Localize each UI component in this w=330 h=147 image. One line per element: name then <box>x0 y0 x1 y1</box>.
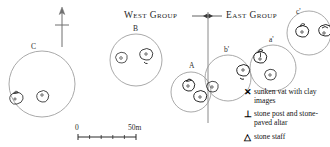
north-arrow-icon <box>55 7 69 47</box>
site-map-root: West Group East Group C B A b' a' c' 0 5… <box>0 0 330 147</box>
east-group-title: East Group <box>226 11 277 21</box>
group-title-connector <box>192 13 222 18</box>
feature-vat <box>37 91 49 103</box>
legend-item-vat: ✕ sunken vat with clay images <box>243 88 330 105</box>
enclosure-B <box>110 34 162 86</box>
scale-bar-end-label: 50m <box>128 124 141 132</box>
west-group-title: West Group <box>124 11 177 21</box>
feature-vat <box>254 50 267 64</box>
feature-vat <box>183 79 195 91</box>
enclosure-label-A: A <box>189 62 194 70</box>
legend-label-post-altar: stone post and stone-paved altar <box>254 110 330 127</box>
x-cross-icon: ✕ <box>243 88 252 97</box>
feature-vat <box>194 91 207 103</box>
enclosure-label-b-prime: b' <box>224 46 229 54</box>
legend-label-vat: sunken vat with clay images <box>254 88 330 105</box>
legend-item-stone-staff: △ stone staff <box>243 133 330 142</box>
triangle-icon: △ <box>243 133 252 142</box>
enclosure-label-a-prime: a' <box>269 36 274 44</box>
enclosure-a-prime <box>250 45 296 91</box>
enclosure-c-prime <box>287 11 330 55</box>
legend-label-stone-staff: stone staff <box>254 133 330 142</box>
feature-vat <box>116 52 128 63</box>
enclosure-label-B: B <box>133 25 138 33</box>
scale-bar <box>78 134 136 140</box>
feature-vat <box>319 25 330 37</box>
scale-bar-start-label: 0 <box>75 124 79 132</box>
feature-vat <box>140 49 153 64</box>
feature-vat <box>265 69 277 80</box>
feature-vat <box>296 24 309 38</box>
enclosure-label-c-prime: c' <box>296 8 301 16</box>
enclosure-label-C: C <box>31 43 36 51</box>
enclosure-C <box>9 51 75 117</box>
perp-icon: ⊥ <box>243 110 252 119</box>
legend-item-post-altar: ⊥ stone post and stone-paved altar <box>243 110 330 127</box>
